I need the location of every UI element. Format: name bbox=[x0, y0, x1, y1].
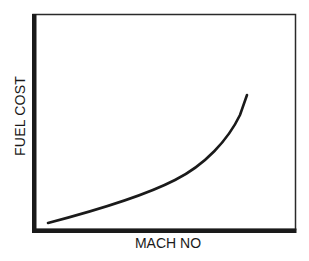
fuel-cost-curve bbox=[48, 95, 247, 223]
y-axis-line bbox=[32, 14, 37, 233]
plot-frame bbox=[33, 15, 296, 230]
x-axis-line bbox=[32, 229, 297, 234]
chart-canvas bbox=[0, 0, 309, 261]
y-axis-label: FUEL COST bbox=[12, 76, 28, 156]
x-axis-label: MACH NO bbox=[135, 235, 201, 251]
